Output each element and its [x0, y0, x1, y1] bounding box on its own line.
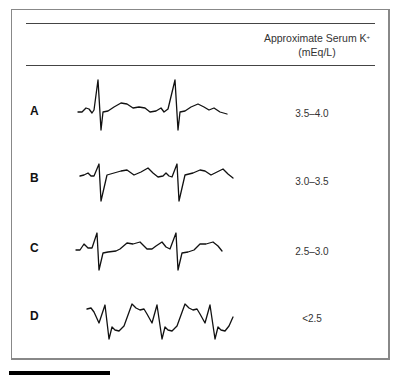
row-label-c: C — [30, 241, 39, 255]
row-value-c: 2.5–3.0 — [262, 246, 362, 257]
row-value-d: <2.5 — [262, 313, 362, 324]
row-label-a: A — [30, 104, 39, 118]
row-value-b: 3.0–3.5 — [262, 176, 362, 187]
header-line2: (mEq/L) — [298, 46, 335, 58]
column-header: Approximate Serum K+ (mEq/L) — [258, 31, 376, 59]
ecg-trace-b — [60, 140, 250, 220]
row-value-a: 3.5–4.0 — [262, 108, 362, 119]
top-rule — [26, 23, 375, 24]
header-superscript: + — [367, 34, 371, 40]
footer-bar — [9, 371, 110, 375]
ecg-trace-c — [60, 210, 250, 290]
row-label-b: B — [30, 171, 39, 185]
ecg-trace-a — [60, 70, 250, 150]
row-label-d: D — [30, 309, 39, 323]
ecg-trace-d — [60, 280, 250, 360]
header-rule — [26, 65, 375, 66]
header-line1: Approximate Serum K — [264, 32, 367, 44]
